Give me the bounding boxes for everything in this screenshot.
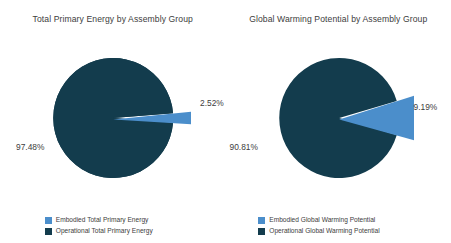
legend-left: Embodied Total Primary Energy Operationa… bbox=[0, 216, 226, 235]
legend-right: Embodied Global Warming Potential Operat… bbox=[226, 216, 451, 235]
legend-item-embodied[interactable]: Embodied Total Primary Energy bbox=[45, 216, 181, 224]
pie-plot-area-left bbox=[0, 30, 226, 190]
chart-panel-global-warming-potential: Global Warming Potential by Assembly Gro… bbox=[226, 0, 451, 243]
legend-label-operational: Operational Total Primary Energy bbox=[56, 227, 153, 235]
page-title: Total Primary Energy by Assembly Group bbox=[0, 14, 226, 24]
legend-swatch-embodied-icon bbox=[45, 217, 52, 224]
pie-value-label-operational-right: 90.81% bbox=[230, 142, 258, 152]
pie-value-label-operational: 97.48% bbox=[16, 142, 44, 152]
legend-item-embodied-right[interactable]: Embodied Global Warming Potential bbox=[258, 216, 418, 224]
pie-svg-left bbox=[0, 30, 226, 190]
legend-swatch-operational-icon bbox=[258, 228, 265, 235]
legend-label-embodied: Embodied Total Primary Energy bbox=[56, 216, 149, 224]
legend-swatch-embodied-icon bbox=[258, 217, 265, 224]
legend-label-embodied-right: Embodied Global Warming Potential bbox=[269, 216, 375, 224]
page-title-secondary: Global Warming Potential by Assembly Gro… bbox=[226, 14, 451, 24]
pie-value-label-embodied: 2.52% bbox=[200, 98, 224, 108]
legend-item-operational[interactable]: Operational Total Primary Energy bbox=[45, 227, 181, 235]
legend-item-operational-right[interactable]: Operational Global Warming Potential bbox=[258, 227, 418, 235]
chart-panel-total-primary-energy: Total Primary Energy by Assembly Group 9… bbox=[0, 0, 226, 243]
pie-value-label-embodied-right: 9.19% bbox=[414, 102, 438, 112]
pie-chart-figure: Total Primary Energy by Assembly Group 9… bbox=[0, 0, 451, 243]
legend-label-operational-right: Operational Global Warming Potential bbox=[269, 227, 379, 235]
legend-swatch-operational-icon bbox=[45, 228, 52, 235]
